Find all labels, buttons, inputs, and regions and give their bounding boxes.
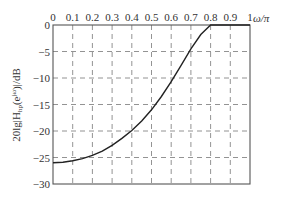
y-tick-label: −15 <box>33 99 51 111</box>
x-tick-label: 0.9 <box>223 11 237 23</box>
grid-lines <box>53 25 250 184</box>
x-axis-label: ω/π <box>253 12 270 24</box>
x-tick-label: 0.1 <box>66 11 80 23</box>
y-tick-label: −20 <box>33 125 51 137</box>
y-tick-label: −5 <box>38 46 50 58</box>
y-tick-label: −10 <box>33 72 51 84</box>
x-tick-label: 0 <box>50 11 56 23</box>
x-tick-label: 0.8 <box>204 11 218 23</box>
y-tick-label: −25 <box>33 152 51 164</box>
x-tick-label: 0.5 <box>145 11 159 23</box>
y-tick-label: −30 <box>33 178 51 190</box>
y-axis-label-end: )|/dB <box>10 68 23 90</box>
y-tick-label: 0 <box>45 19 51 31</box>
x-tick-label: 1 <box>247 11 253 23</box>
y-axis-label-tail: (e <box>10 96 23 105</box>
x-tick-label: 0.4 <box>125 11 139 23</box>
y-axis-tick-labels: 0−5−10−15−20−25−30 <box>33 19 51 190</box>
x-tick-label: 0.2 <box>86 11 100 23</box>
magnitude-response-chart: 00.10.20.30.40.50.60.70.80.91 0−5−10−15−… <box>0 0 286 199</box>
x-axis-tick-labels: 00.10.20.30.40.50.60.70.80.91 <box>50 11 253 23</box>
x-tick-label: 0.3 <box>105 11 119 23</box>
y-axis-label-main: 20lg|H <box>10 112 22 142</box>
x-tick-label: 0.7 <box>184 11 198 23</box>
x-tick-label: 0.6 <box>164 11 178 23</box>
y-axis-label: 20lg|Hhp(ejω)|/dB <box>10 68 24 142</box>
